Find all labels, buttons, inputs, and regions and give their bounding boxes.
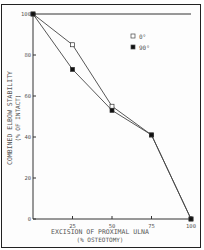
y-tick-label: 0 [28, 216, 31, 222]
series-lines [31, 12, 193, 221]
x-tick-label: 100 [186, 223, 196, 229]
filled-square-marker [71, 67, 75, 71]
line-chart: 020406080100255075100 0°90° EXCISION OF … [0, 0, 204, 250]
legend-open-square-icon [131, 34, 135, 38]
axes: 020406080100255075100 [21, 11, 196, 229]
y-tick-label: 100 [21, 11, 31, 17]
filled-square-marker [31, 12, 35, 16]
y-tick-label: 20 [24, 175, 31, 181]
open-square-marker [71, 43, 75, 47]
y-tick-label: 60 [24, 93, 31, 99]
x-tick-label: 75 [148, 223, 155, 229]
filled-square-marker [150, 133, 154, 137]
filled-square-marker [110, 108, 114, 112]
y-tick-label: 40 [24, 134, 31, 140]
series-line [33, 14, 191, 219]
series-line [33, 14, 191, 219]
legend-label: 90° [139, 44, 150, 51]
filled-square-marker [189, 217, 193, 221]
open-square-marker [110, 104, 114, 108]
legend-label: 0° [139, 33, 146, 40]
y-axis-label: COMBINED ELBOW STABILITY [6, 71, 14, 165]
legend: 0°90° [131, 33, 150, 51]
x-axis-label: EXCISION OF PROXIMAL ULNA [51, 228, 149, 236]
x-axis-sublabel: (% OSTEOTOMY) [77, 236, 124, 243]
y-axis-sublabel: (% OF INTACT) [14, 95, 21, 142]
y-tick-label: 80 [24, 52, 31, 58]
legend-filled-square-icon [131, 45, 135, 49]
